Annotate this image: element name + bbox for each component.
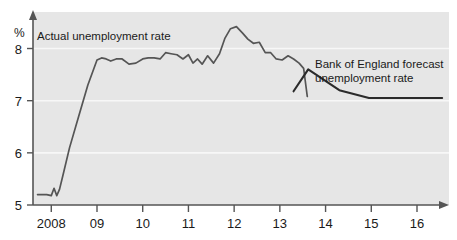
y-axis-tick-label: 8	[15, 42, 22, 57]
x-axis-ticks: 20080910111213141516	[37, 205, 424, 231]
y-axis-ticks: 5678	[15, 42, 33, 213]
x-axis-tick-label: 2008	[37, 216, 66, 231]
y-axis-tick-label: 6	[15, 146, 22, 161]
x-axis-tick-label: 13	[273, 216, 287, 231]
y-axis-unit-label: %	[14, 26, 25, 40]
y-axis-tick-label: 7	[15, 94, 22, 109]
y-axis-tick-label: 5	[15, 198, 22, 213]
chart-svg: 5678 20080910111213141516 % Actual unemp…	[0, 0, 457, 240]
x-axis-tick-label: 10	[135, 216, 149, 231]
x-axis-tick-label: 16	[410, 216, 424, 231]
annotation-actual-series: Actual unemployment rate	[37, 30, 171, 42]
annotation-forecast-series-line2: unemployment rate	[315, 72, 413, 84]
x-axis-tick-label: 12	[227, 216, 241, 231]
x-axis-tick-label: 14	[318, 216, 332, 231]
annotation-forecast-series-line1: Bank of England forecast	[315, 58, 444, 70]
unemployment-rate-chart: 5678 20080910111213141516 % Actual unemp…	[0, 0, 457, 240]
x-axis-tick-label: 15	[364, 216, 378, 231]
x-axis-tick-label: 09	[90, 216, 104, 231]
x-axis-tick-label: 11	[182, 216, 196, 231]
